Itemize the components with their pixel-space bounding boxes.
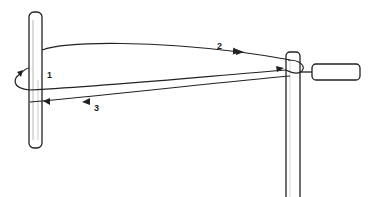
rope-loop-left [15,74,30,90]
rope-strand-2 [42,43,290,60]
label-step-2: 2 [217,41,222,51]
rope-diagram: 1 2 3 [0,0,380,197]
arrow-icon [82,98,90,105]
label-step-1: 1 [47,70,52,80]
handle [300,64,360,80]
label-step-3: 3 [94,103,99,113]
arrow-icon [236,49,244,55]
arrow-icon [43,98,50,105]
rope-strand-3 [30,76,290,102]
left-post [29,12,42,148]
right-post [286,52,300,197]
